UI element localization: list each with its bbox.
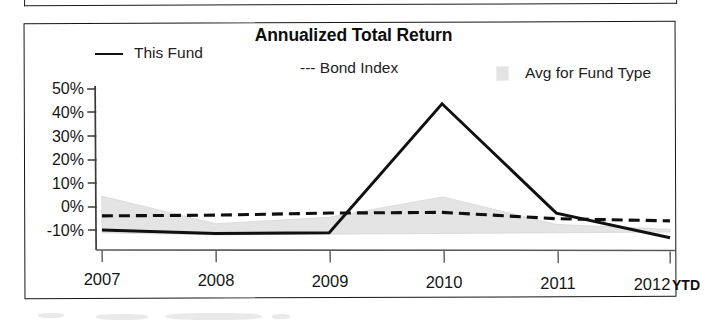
x-axis-line [96,246,676,254]
y-axis-line [95,86,96,250]
scan-artifact [272,314,290,319]
y-tick-label: 10% [52,175,84,192]
plot-area: 50% 40% 30% 20% 10% 0% -10% 2007 2008 20… [0,0,707,324]
y-tick-label: 50% [52,80,84,97]
x-tick-label: 2008 [198,271,235,289]
x-axis-tick-labels: 2007 2008 2009 2010 2011 2012 YTD [84,270,700,293]
y-tick-label: 30% [52,128,84,145]
x-tick-label: 2007 [84,270,121,288]
x-tick-label: 2010 [426,273,463,291]
scan-artifact [96,314,148,320]
y-tick-label: 0% [61,198,84,215]
chart-svg: 50% 40% 30% 20% 10% 0% -10% 2007 2008 20… [0,0,707,324]
y-tick-label: 40% [52,104,84,121]
x-tick-label: 2012 [634,275,671,293]
y-tick-label: 20% [52,151,84,168]
x-axis-ytd-label: YTD [672,277,700,293]
scan-artifact [166,313,262,320]
y-tick-label: -10% [47,222,84,239]
y-axis-tick-labels: 50% 40% 30% 20% 10% 0% -10% [47,80,84,239]
scan-artifact [38,313,64,318]
chart-page: Annualized Total Return This Fund --- Bo… [0,0,707,324]
x-tick-label: 2011 [540,274,575,292]
x-tick-label: 2009 [312,272,349,290]
